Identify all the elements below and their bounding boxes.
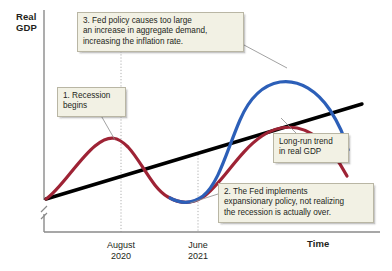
x-axis-title: Time bbox=[307, 239, 329, 250]
callout-fed-implements-policy: 2. The Fed implements expansionary polic… bbox=[218, 183, 374, 223]
leader-line-callout-3 bbox=[244, 45, 287, 68]
y-axis-title: Real GDP bbox=[16, 12, 37, 33]
callout-fed-policy-inflation: 3. Fed policy causes too large an increa… bbox=[77, 12, 244, 52]
callout-recession-begins: 1. Recession begins bbox=[57, 87, 126, 117]
x-tick-label-june-2021: June 2021 bbox=[163, 240, 233, 262]
x-tick-label-august-2020: August 2020 bbox=[86, 240, 156, 262]
callout-long-run-trend: Long-run trend in real GDP bbox=[273, 133, 349, 163]
chart-figure: Real GDP Time August 2020 June 2021 3. F… bbox=[0, 0, 392, 271]
